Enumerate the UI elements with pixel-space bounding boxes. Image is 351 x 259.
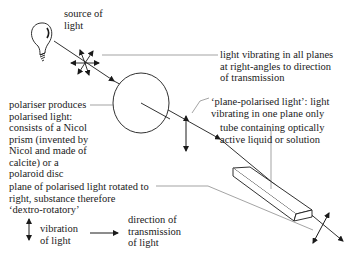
- legend-vibration-label: vibration of light: [40, 223, 78, 246]
- label-all-planes: light vibrating in all planes at right-a…: [220, 49, 333, 84]
- label-source-of-light: source of light: [64, 8, 103, 31]
- label-rotated: plane of polarised light rotated to righ…: [9, 181, 149, 216]
- light-bulb-icon: [32, 23, 52, 61]
- tilted-double-arrow-icon: [313, 213, 329, 243]
- multi-direction-arrows-icon: [71, 50, 99, 75]
- label-plane-polarised: ‘plane-polarised light’: light vibrating…: [211, 96, 329, 119]
- label-tube: tube containing optically active liquid …: [220, 122, 324, 145]
- legend-direction-label: direction of transmission of light: [128, 214, 181, 249]
- label-polariser: polariser produces polarised light: cons…: [9, 99, 88, 180]
